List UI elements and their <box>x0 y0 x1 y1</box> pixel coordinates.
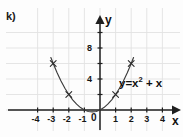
equation-rhs: + x <box>143 77 163 89</box>
y-tick-label: 4 <box>87 75 92 84</box>
x-tick-label: 2 <box>129 115 134 124</box>
y-axis-label: y <box>105 14 112 26</box>
equation-label: y=x2 + x <box>119 78 162 90</box>
x-tick-label: -1 <box>78 115 86 124</box>
x-tick-label: -4 <box>32 115 40 124</box>
x-tick-label: 1 <box>113 115 118 124</box>
x-tick-label: 3 <box>144 115 149 124</box>
y-tick-label: 8 <box>87 44 92 53</box>
equation-lhs: y=x <box>119 77 139 89</box>
x-tick-label: -2 <box>63 115 71 124</box>
x-axis-label: x <box>172 115 179 127</box>
x-tick-label: 4 <box>160 115 165 124</box>
graph-figure: k) -4-3-2-11234 48 0 x y y=x2 + x <box>0 0 183 137</box>
origin-label: 0 <box>91 113 97 123</box>
x-tick-label: -3 <box>47 115 55 124</box>
